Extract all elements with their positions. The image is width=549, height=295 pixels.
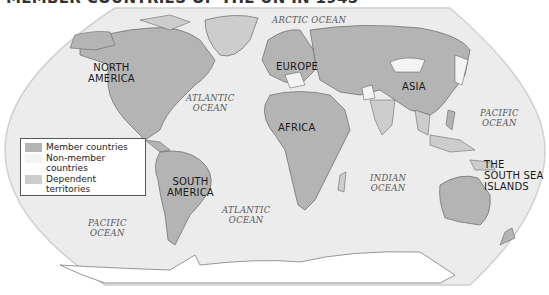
label-line: NORTH: [88, 62, 135, 73]
swatch-dependent: [25, 175, 42, 184]
swatch-member: [25, 143, 42, 152]
label-atlantic-north: ATLANTIC OCEAN: [186, 93, 235, 113]
swatch-non-member: [25, 154, 42, 163]
label-line: PACIFIC: [88, 218, 127, 228]
label-indian-ocean: INDIAN OCEAN: [370, 173, 406, 193]
label-line: EUROPE: [276, 61, 318, 72]
label-line: AMERICA: [167, 187, 214, 198]
label-pacific-west: PACIFIC OCEAN: [88, 218, 127, 238]
label-line: PACIFIC: [480, 108, 519, 118]
legend-item-member: Member countries: [25, 142, 141, 152]
label-line: SOUTH SEA: [484, 170, 544, 181]
label-line: ATLANTIC: [186, 93, 235, 103]
legend-item-non-member: Non-member countries: [25, 153, 141, 173]
legend-label: Member countries: [46, 142, 128, 152]
label-line: ATLANTIC: [222, 205, 271, 215]
label-line: INDIAN: [370, 173, 406, 183]
label-line: OCEAN: [480, 118, 519, 128]
label-south-america: SOUTH AMERICA: [167, 176, 214, 198]
label-europe: EUROPE: [276, 61, 318, 72]
label-pacific-east: PACIFIC OCEAN: [480, 108, 519, 128]
label-south-sea-islands: THE SOUTH SEA ISLANDS: [484, 159, 544, 192]
label-line: AMERICA: [88, 73, 135, 84]
label-line: ASIA: [402, 81, 426, 92]
label-line: THE: [484, 159, 544, 170]
legend-label: Non-member countries: [46, 153, 116, 173]
legend-item-dependent: Dependent territories: [25, 174, 141, 194]
world-map: NORTH AMERICA SOUTH AMERICA EUROPE AFRIC…: [0, 0, 549, 295]
label-line: OCEAN: [370, 183, 406, 193]
label-line: SOUTH: [167, 176, 214, 187]
map-legend: Member countries Non-member countries De…: [20, 138, 146, 196]
label-line: OCEAN: [222, 215, 271, 225]
label-atlantic-south: ATLANTIC OCEAN: [222, 205, 271, 225]
label-asia: ASIA: [402, 81, 426, 92]
label-north-america: NORTH AMERICA: [88, 62, 135, 84]
label-line: OCEAN: [186, 103, 235, 113]
label-line: ISLANDS: [484, 181, 544, 192]
label-line: AFRICA: [278, 122, 316, 133]
legend-label: Dependent territories: [46, 174, 141, 194]
label-africa: AFRICA: [278, 122, 316, 133]
label-arctic-ocean: ARCTIC OCEAN: [272, 15, 346, 25]
label-line: OCEAN: [88, 228, 127, 238]
